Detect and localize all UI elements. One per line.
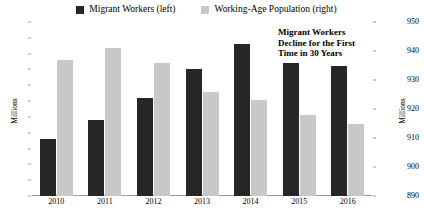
- legend-entry-migrant-workers: Migrant Workers (left): [76, 5, 175, 15]
- left-tick-mark: [28, 116, 31, 117]
- chart-annotation: Migrant Workers Decline for the First Ti…: [278, 27, 403, 59]
- bar-group: [178, 22, 227, 196]
- bar-group: [129, 22, 178, 196]
- bar: [203, 92, 219, 196]
- right-tick-mark: [373, 167, 376, 168]
- annotation-line-3: Time in 30 Years: [278, 48, 403, 59]
- right-tick-mark: [373, 109, 376, 110]
- left-axis-title: Millions: [11, 98, 19, 123]
- bar: [251, 100, 267, 196]
- bar: [348, 124, 364, 197]
- left-tick-mark: [28, 85, 31, 86]
- bar: [57, 60, 73, 196]
- bar: [300, 115, 316, 196]
- square-swatch-icon: [76, 6, 84, 14]
- right-tick-label: 940: [407, 47, 424, 55]
- legend-entry-working-age-population: Working-Age Population (right): [201, 5, 336, 15]
- legend-label-migrant-workers: Migrant Workers (left): [89, 5, 175, 15]
- right-tick-label: 920: [407, 105, 424, 113]
- x-axis-label: 2011: [81, 198, 130, 212]
- left-tick-mark: [28, 132, 31, 133]
- right-tick-mark: [373, 196, 376, 197]
- left-tick-mark: [28, 164, 31, 165]
- bar: [234, 44, 250, 196]
- right-tick-label: 900: [407, 163, 424, 171]
- right-tick-label: 950: [407, 18, 424, 26]
- right-axis-title: Millions: [399, 98, 407, 123]
- bar: [137, 98, 153, 196]
- right-tick-mark: [373, 138, 376, 139]
- right-tick-label: 930: [407, 76, 424, 84]
- x-axis-labels: 2010201120122013201420152016: [32, 198, 372, 212]
- right-tick-label: 910: [407, 134, 424, 142]
- bar: [186, 69, 202, 196]
- chart-legend: Migrant Workers (left) Working-Age Popul…: [0, 3, 413, 17]
- bar: [283, 63, 299, 196]
- annotation-line-1: Migrant Workers: [278, 27, 403, 38]
- left-tick-mark: [28, 37, 31, 38]
- left-tick-mark: [28, 101, 31, 102]
- left-tick-mark: [28, 69, 31, 70]
- left-tick-mark: [28, 196, 31, 197]
- annotation-line-2: Decline for the First: [278, 38, 403, 49]
- legend-label-working-age-population: Working-Age Population (right): [214, 5, 336, 15]
- bar-group: [226, 22, 275, 196]
- bar: [88, 120, 104, 196]
- x-axis-label: 2013: [178, 198, 227, 212]
- left-tick-mark: [28, 180, 31, 181]
- bar-group: [32, 22, 81, 196]
- square-swatch-icon: [201, 6, 209, 14]
- right-tick-label: 890: [407, 192, 424, 200]
- bar: [40, 139, 56, 196]
- left-tick-mark: [28, 22, 31, 23]
- x-axis-label: 2012: [129, 198, 178, 212]
- left-tick-mark: [28, 148, 31, 149]
- bar: [331, 66, 347, 196]
- bar: [105, 48, 121, 196]
- x-axis-label: 2014: [226, 198, 275, 212]
- x-axis-label: 2015: [275, 198, 324, 212]
- x-axis-label: 2016: [323, 198, 372, 212]
- right-tick-mark: [373, 22, 376, 23]
- left-tick-mark: [28, 53, 31, 54]
- x-axis-label: 2010: [32, 198, 81, 212]
- bar-group: [81, 22, 130, 196]
- bar: [154, 63, 170, 196]
- right-tick-mark: [373, 80, 376, 81]
